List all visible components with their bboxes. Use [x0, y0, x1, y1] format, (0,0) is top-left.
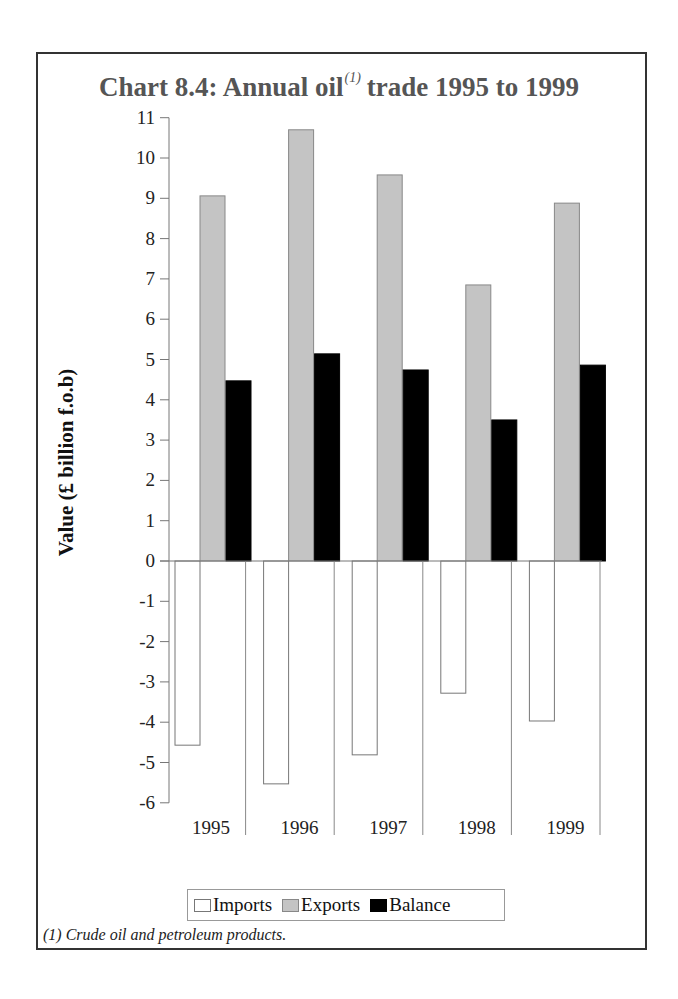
y-tick-label: 6 [146, 308, 156, 329]
bar-imports-1996 [264, 561, 289, 784]
y-tick-label: 10 [136, 147, 155, 168]
y-tick-label: 5 [146, 349, 156, 370]
bar-exports-1995 [200, 196, 225, 561]
legend-label: Balance [389, 894, 450, 916]
bar-balance-1998 [492, 420, 517, 561]
bar-balance-1999 [580, 365, 605, 561]
x-tick-label: 1997 [369, 817, 407, 838]
x-tick-label: 1996 [281, 817, 319, 838]
y-tick-label: 9 [146, 187, 156, 208]
y-tick-label: -3 [139, 671, 155, 692]
y-tick-label: -5 [139, 752, 155, 773]
bar-imports-1995 [175, 561, 200, 745]
y-tick-label: 3 [146, 429, 156, 450]
y-tick-label: 2 [146, 469, 156, 490]
bar-imports-1998 [441, 561, 466, 693]
y-tick-label: 0 [146, 550, 156, 571]
x-tick-label: 1999 [546, 817, 584, 838]
legend-swatch-icon [370, 899, 387, 912]
legend-label: Exports [301, 894, 360, 916]
bar-exports-1999 [554, 203, 579, 561]
y-tick-label: 7 [146, 268, 156, 289]
y-tick-label: -2 [139, 631, 155, 652]
bar-imports-1997 [352, 561, 377, 755]
y-tick-label: 4 [146, 389, 156, 410]
y-tick-label: 1 [146, 510, 156, 531]
bar-exports-1996 [289, 130, 314, 561]
y-tick-label: 11 [137, 107, 155, 128]
legend-label: Imports [213, 894, 272, 916]
bar-balance-1995 [226, 381, 251, 561]
bar-balance-1997 [403, 370, 428, 561]
y-tick-label: 8 [146, 228, 156, 249]
bar-imports-1999 [529, 561, 554, 721]
x-tick-label: 1995 [192, 817, 230, 838]
y-tick-label: -4 [139, 711, 155, 732]
bar-exports-1997 [377, 175, 402, 561]
legend-swatch-icon [194, 899, 211, 912]
footnote: (1) Crude oil and petroleum products. [43, 926, 286, 944]
bar-balance-1996 [315, 354, 340, 561]
legend-item-exports: Exports [282, 894, 360, 916]
bar-exports-1998 [466, 285, 491, 561]
legend-swatch-icon [282, 899, 299, 912]
x-tick-label: 1998 [458, 817, 496, 838]
y-tick-label: -1 [139, 590, 155, 611]
legend: ImportsExportsBalance [187, 889, 505, 921]
legend-item-imports: Imports [194, 894, 272, 916]
legend-item-balance: Balance [370, 894, 450, 916]
y-tick-label: -6 [139, 792, 155, 813]
plot-area: 11109876543210-1-2-3-4-5-619951996199719… [0, 0, 678, 999]
